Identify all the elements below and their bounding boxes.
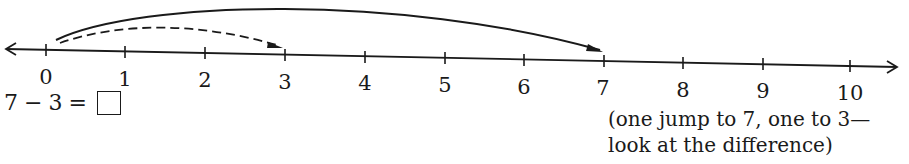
answer-box[interactable] [97,91,121,115]
equation-minus: − [24,90,42,115]
arrowhead-7-icon [586,44,603,52]
jump-arrow-to-7 [56,9,600,50]
equation-equals: = [68,90,86,115]
tick-label-3: 3 [278,72,291,93]
tick-label-2: 2 [198,70,211,91]
tick-label-1: 1 [118,69,131,90]
jump-arrow-to-3 [60,28,280,46]
tick-label-4: 4 [358,73,371,94]
tick-label-8: 8 [676,80,689,101]
tick-label-5: 5 [438,75,451,96]
note-line-1: (one jump to 7, one to 3— [608,106,870,132]
tick-label-0: 0 [39,67,52,88]
tick-label-7: 7 [596,78,609,99]
equation-subtrahend: 3 [48,90,62,115]
tick-label-10: 10 [837,83,864,104]
subtraction-equation: 7 − 3 = [4,90,121,115]
equation-minuend: 7 [4,90,18,115]
arrowhead-3-icon [267,42,283,48]
explanation-note: (one jump to 7, one to 3— look at the di… [608,106,870,158]
note-line-2: look at the difference) [608,132,870,158]
tick-label-9: 9 [756,81,769,102]
tick-label-6: 6 [517,77,530,98]
